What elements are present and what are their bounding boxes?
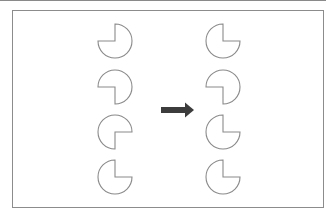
left-shape-2-missing-bottom-left <box>98 70 132 104</box>
right-shape-3-missing-top-right <box>206 115 240 149</box>
arrow-head <box>185 103 194 118</box>
left-shape-4-missing-top-right <box>98 160 132 194</box>
right-arrow-icon <box>161 103 194 118</box>
left-shape-1-missing-top-left <box>98 24 132 58</box>
right-shape-2-missing-bottom-left <box>206 70 240 104</box>
left-shape-3-missing-bottom-right <box>98 115 132 149</box>
arrow-shaft <box>161 107 185 113</box>
right-shape-1-missing-top-right <box>206 24 240 58</box>
right-column <box>206 24 240 194</box>
left-column <box>98 24 132 194</box>
diagram-canvas <box>0 0 336 217</box>
right-shape-4-missing-top-right <box>206 160 240 194</box>
